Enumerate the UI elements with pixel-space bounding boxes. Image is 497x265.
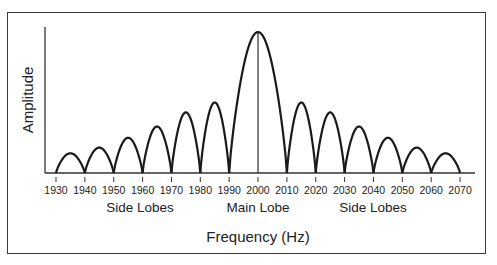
x-tick-label: 2000 <box>246 184 270 196</box>
lobe-chart: 1930194019501960197019801990200020102020… <box>0 0 497 265</box>
x-tick-label: 1970 <box>160 184 184 196</box>
x-tick-label: 1980 <box>189 184 213 196</box>
side-lobe <box>402 148 431 173</box>
x-ticks: 1930194019501960197019801990200020102020… <box>44 177 472 196</box>
side-lobe <box>171 112 200 173</box>
x-tick-label: 2030 <box>333 184 357 196</box>
x-tick-label: 2070 <box>448 184 472 196</box>
x-tick-label: 1990 <box>217 184 241 196</box>
lobe-curve <box>56 32 460 173</box>
side-lobe <box>85 148 114 173</box>
x-axis-title: Frequency (Hz) <box>206 228 309 245</box>
y-axis-title: Amplitude <box>19 67 36 134</box>
side-lobe <box>373 138 402 173</box>
side-lobe <box>345 126 374 173</box>
x-tick-label: 1960 <box>131 184 155 196</box>
x-tick-label: 1930 <box>44 184 68 196</box>
x-tick-label: 2010 <box>275 184 299 196</box>
side-lobe <box>143 126 172 173</box>
side-lobe <box>200 103 229 174</box>
side-lobe <box>316 112 345 173</box>
x-tick-label: 2040 <box>362 184 386 196</box>
x-tick-label: 2050 <box>391 184 415 196</box>
side-lobe <box>56 153 85 173</box>
side-lobe <box>114 138 143 173</box>
side-lobe <box>431 153 460 173</box>
x-tick-label: 1940 <box>73 184 97 196</box>
x-tick-label: 2060 <box>420 184 444 196</box>
x-tick-label: 1950 <box>102 184 126 196</box>
side-lobe <box>287 103 316 174</box>
left-side-lobes-label: Side Lobes <box>106 200 174 215</box>
x-tick-label: 2020 <box>304 184 328 196</box>
right-side-lobes-label: Side Lobes <box>339 200 407 215</box>
main-lobe-label: Main Lobe <box>226 200 289 215</box>
